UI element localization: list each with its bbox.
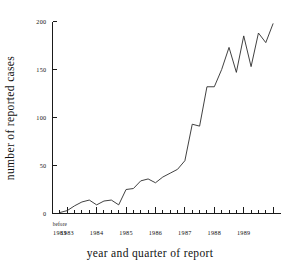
axes — [53, 22, 281, 214]
x-axis-tick-label: 1984 — [90, 229, 104, 236]
y-axis-ticks — [53, 22, 57, 214]
y-axis-tick-label: 100 — [36, 114, 46, 121]
line-chart: 050100150200 before198319831984198519861… — [0, 0, 298, 267]
x-axis-tick-label-before: before — [53, 221, 68, 227]
chart-container: 050100150200 before198319831984198519861… — [0, 0, 298, 267]
x-axis-tick-label: 1989 — [237, 229, 251, 236]
y-axis-tick-label: 150 — [36, 66, 46, 73]
x-axis-tick-label: 1983 — [60, 229, 74, 236]
x-axis-tick-label: 1987 — [178, 229, 192, 236]
y-axis-title: number of reported cases — [4, 56, 17, 180]
x-axis-tick-label: 1985 — [119, 229, 133, 236]
x-axis-tick-label: 1988 — [208, 229, 222, 236]
y-axis-tick-label: 0 — [43, 210, 46, 217]
x-axis-title: year and quarter of report — [87, 247, 214, 260]
x-axis-tick-labels: before19831983198419851986198719881989 — [53, 221, 251, 236]
y-axis-tick-labels: 050100150200 — [36, 18, 46, 217]
x-axis-ticks — [60, 207, 273, 214]
y-axis-tick-label: 50 — [40, 162, 47, 169]
x-axis-tick-label: 1986 — [149, 229, 163, 236]
data-series-line — [60, 23, 273, 212]
y-axis-tick-label: 200 — [36, 18, 46, 25]
